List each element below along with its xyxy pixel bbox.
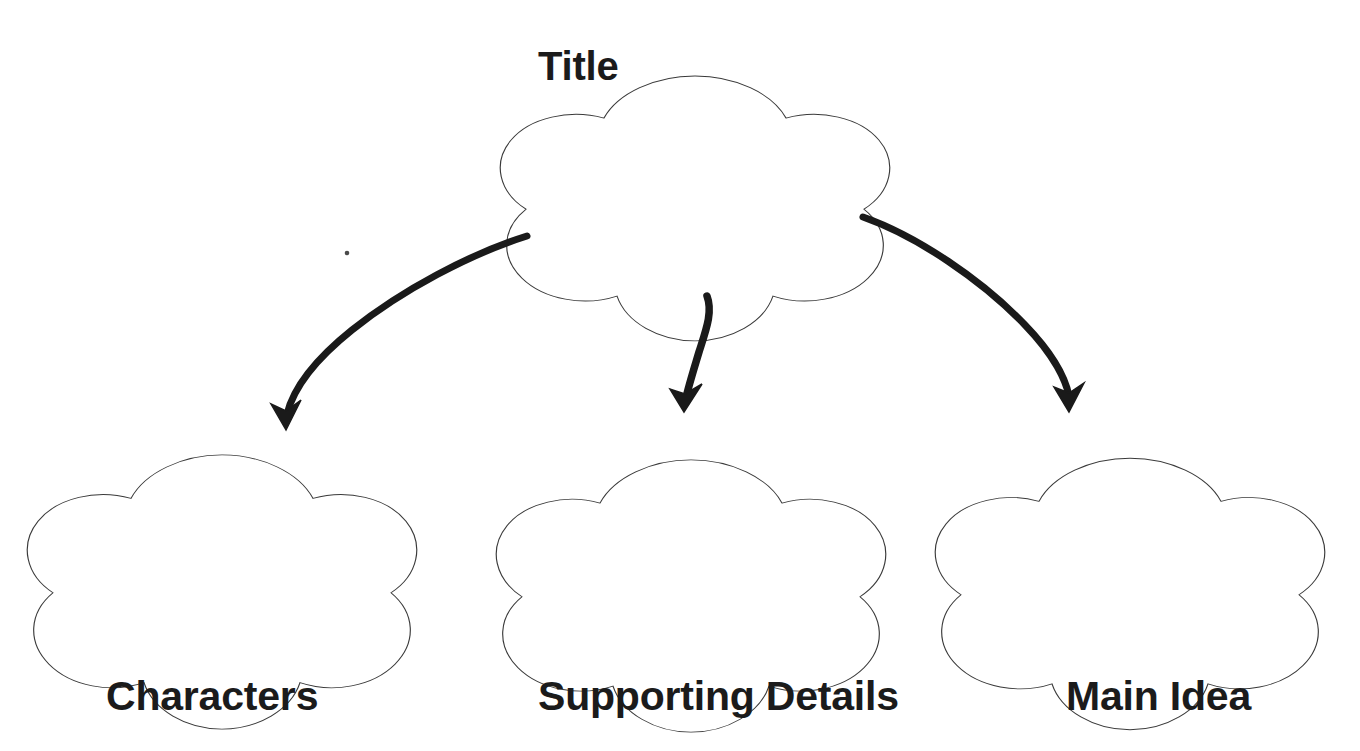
connector-line-characters bbox=[287, 236, 527, 414]
scan-speck-artifact bbox=[345, 251, 350, 256]
node-title[interactable] bbox=[500, 76, 889, 341]
node-label-supporting-details: Supporting Details bbox=[538, 676, 899, 717]
node-label-title: Title bbox=[538, 46, 619, 86]
connector-line-main-idea bbox=[863, 217, 1069, 396]
worksheet-canvas: Title Characters Supporting Details Main… bbox=[0, 0, 1360, 751]
graphic-organizer-diagram bbox=[0, 0, 1360, 751]
arrowhead-characters bbox=[271, 400, 301, 430]
connector-title-to-main-idea bbox=[863, 217, 1084, 412]
connector-title-to-characters bbox=[271, 236, 527, 430]
node-label-main-idea: Main Idea bbox=[1066, 676, 1251, 717]
flower-shape-title[interactable] bbox=[500, 76, 889, 341]
node-label-characters: Characters bbox=[106, 676, 318, 717]
